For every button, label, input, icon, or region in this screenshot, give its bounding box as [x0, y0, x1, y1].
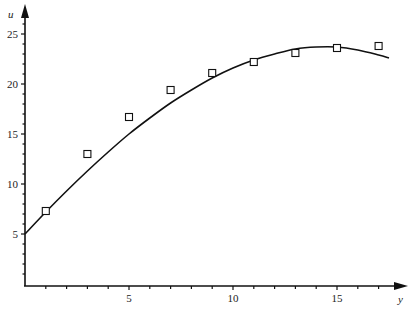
x-axis: y 51015 — [24, 282, 408, 305]
square-marker-icon — [375, 43, 382, 50]
y-tick-label: 25 — [7, 28, 19, 40]
y-ticks: 510152025 — [7, 24, 25, 274]
square-marker-icon — [292, 50, 299, 57]
square-marker-icon — [42, 208, 49, 215]
square-marker-icon — [126, 114, 133, 121]
y-tick-label: 20 — [7, 78, 19, 90]
y-axis-label: u — [8, 8, 14, 20]
y-axis-arrow-icon — [21, 4, 29, 18]
y-axis: u 510152025 — [7, 4, 29, 286]
y-tick-label: 5 — [13, 228, 19, 240]
y-tick-label: 15 — [7, 128, 19, 140]
chart: u 510152025 y 51015 — [0, 0, 414, 314]
x-tick-label: 10 — [228, 292, 240, 304]
x-tick-label: 15 — [332, 292, 344, 304]
square-marker-icon — [167, 87, 174, 94]
x-axis-label: y — [397, 293, 403, 305]
x-ticks: 51015 — [46, 286, 379, 304]
square-marker-icon — [209, 70, 216, 77]
y-tick-label: 10 — [7, 178, 19, 190]
square-marker-icon — [334, 45, 341, 52]
square-marker-icon — [84, 151, 91, 158]
data-markers — [42, 43, 382, 215]
x-tick-label: 5 — [126, 292, 132, 304]
x-axis-arrow-icon — [394, 282, 408, 290]
square-marker-icon — [250, 59, 257, 66]
fitted-curve — [25, 47, 389, 234]
